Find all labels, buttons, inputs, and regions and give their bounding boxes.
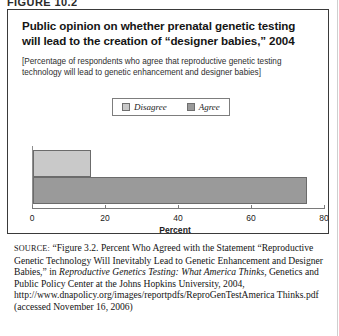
bar-disagree-track — [33, 150, 91, 177]
figure-subtitle: [Percentage of respondents who agree tha… — [22, 56, 314, 78]
source-label: SOURCE: — [14, 244, 50, 253]
page-edge-rule — [337, 0, 338, 336]
bar-agree-track — [33, 177, 307, 204]
x-tick-60 — [251, 205, 252, 209]
x-tick-0 — [32, 205, 33, 209]
figure-container: Public opinion on whether prenatal genet… — [7, 9, 329, 234]
x-tick-label-60: 60 — [246, 213, 255, 223]
legend-swatch-disagree — [122, 103, 130, 111]
source-publication-title: Reproductive Genetics Testing: — [59, 266, 179, 277]
x-tick-80 — [324, 205, 325, 209]
x-axis: 020406080 Percent — [26, 208, 324, 234]
bar-chart: Disagree Agree 020406080 Percent — [8, 96, 328, 234]
x-tick-label-40: 40 — [173, 213, 182, 223]
figure-number-label: FIGURE 10.2 — [7, 0, 77, 6]
source-note: SOURCE: “Figure 3.2. Percent Who Agreed … — [14, 242, 326, 313]
source-text-1: “Figure 3.2. Percent Who Agreed with the… — [52, 242, 255, 253]
x-axis-title: Percent — [26, 225, 324, 235]
plot-area — [26, 146, 324, 208]
chart-legend: Disagree Agree — [112, 98, 230, 116]
x-tick-label-20: 20 — [100, 213, 109, 223]
legend-item-agree: Agree — [187, 102, 220, 112]
legend-label-disagree: Disagree — [134, 102, 167, 112]
legend-item-disagree: Disagree — [122, 102, 167, 112]
legend-swatch-agree — [187, 103, 195, 111]
legend-label-agree: Agree — [199, 102, 220, 112]
x-tick-20 — [105, 205, 106, 209]
bar-disagree — [33, 150, 91, 177]
bar-agree — [33, 177, 307, 204]
x-tick-label-0: 0 — [30, 213, 35, 223]
x-tick-label-80: 80 — [319, 213, 328, 223]
figure-title: Public opinion on whether prenatal genet… — [22, 19, 314, 48]
x-tick-40 — [178, 205, 179, 209]
source-publication-subtitle: What America Thinks — [181, 266, 264, 277]
